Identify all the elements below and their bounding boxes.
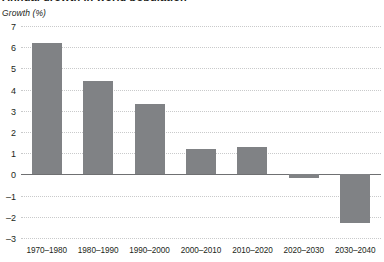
y-axis-tick-label: –3 (6, 235, 16, 244)
x-axis-tick-label: 1980–1990 (78, 246, 119, 255)
bar-chart: Annual growth in world population Growth… (0, 0, 384, 262)
gridline: –3 (21, 238, 381, 239)
y-axis-tick-label: 4 (11, 86, 16, 95)
x-axis-tick-label: 1990–2000 (129, 246, 170, 255)
x-axis-labels: 1970–19801980–19901990–20002000–20102010… (21, 246, 381, 260)
y-axis-tick-label: 2 (11, 129, 16, 138)
y-axis-tick-label: –1 (6, 192, 16, 201)
bar (135, 104, 165, 174)
x-axis-tick-label: 2000–2010 (181, 246, 222, 255)
bar (340, 174, 370, 223)
x-axis-tick-label: 1970–1980 (26, 246, 67, 255)
bar (289, 174, 319, 177)
bar (237, 147, 267, 175)
y-axis-tick-label: 0 (11, 171, 16, 180)
chart-title: Annual growth in world population (2, 0, 187, 1)
bar-series (21, 26, 381, 238)
bar (32, 43, 62, 174)
y-axis-tick-label: 3 (11, 107, 16, 116)
y-axis-tick-label: 5 (11, 65, 16, 74)
y-axis-tick-label: 1 (11, 150, 16, 159)
bar (83, 81, 113, 174)
x-axis-tick-label: 2020–2030 (284, 246, 325, 255)
plot-area: 76543210–1–2–3 (21, 26, 381, 238)
x-axis-tick-label: 2030–2040 (335, 246, 376, 255)
x-axis-tick-label: 2010–2020 (232, 246, 273, 255)
y-axis-tick-label: 7 (11, 23, 16, 32)
y-axis-caption: Growth (%) (2, 8, 46, 18)
y-axis-tick-label: –2 (6, 213, 16, 222)
bar (186, 149, 216, 174)
y-axis-tick-label: 6 (11, 44, 16, 53)
